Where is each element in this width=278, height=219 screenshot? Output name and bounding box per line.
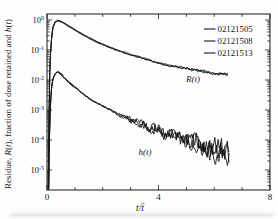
curve-R-run-02121513 [48,20,228,191]
curve-h-run-02121508 [48,72,229,209]
legend-label: 02121513 [218,48,254,58]
x-tick-label: 0 [45,192,50,202]
y-tick-label: 10-1 [31,45,45,55]
legend-label: 02121505 [218,24,254,34]
legend: 021215050212150802121513 [204,24,253,58]
x-tick-label: 8 [268,192,273,202]
legend-item-02121513: 02121513 [204,48,253,58]
chart-svg: 04810010-110-210-310-410-5t/t̄Residue, R… [0,0,278,219]
legend-item-02121508: 02121508 [204,36,253,46]
caption-smudge [10,213,274,217]
curve-label-h: h(t) [139,147,152,157]
x-axis-label: t/t̄ [136,203,145,213]
y-axis-label: Residue, R(t), fraction of dose retained… [3,19,13,189]
y-tick-label: 10-2 [31,75,45,85]
y-tick-label: 10-3 [31,105,45,115]
curve-h-run-02121505 [48,72,229,210]
curve-R-run-02121505 [48,21,228,191]
curve-h-run-02121513 [48,72,229,208]
legend-label: 02121508 [218,36,254,46]
curve-label-R: R(t) [185,74,200,84]
legend-item-02121505: 02121505 [204,24,253,34]
figure: 04810010-110-210-310-410-5t/t̄Residue, R… [0,0,278,219]
x-tick-label: 4 [156,192,161,202]
curve-R-run-02121508 [48,21,228,191]
y-tick-label: 10-4 [31,135,45,145]
y-tick-label: 100 [33,15,45,25]
y-tick-label: 10-5 [31,165,45,175]
